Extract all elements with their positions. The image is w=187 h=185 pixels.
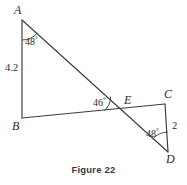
degree-symbol-D: ° bbox=[156, 127, 159, 135]
segment-CD bbox=[165, 104, 168, 152]
angle-value-E: 46 bbox=[93, 97, 103, 108]
geometry-figure: A B C D E 48° 46° 48° 4.2 2 Figure 22 bbox=[0, 0, 187, 185]
vertex-label-E: E bbox=[124, 94, 131, 106]
vertex-label-C: C bbox=[164, 88, 172, 100]
vertex-label-A: A bbox=[14, 4, 21, 16]
side-length-AB: 4.2 bbox=[5, 63, 18, 74]
side-length-CD: 2 bbox=[172, 121, 177, 132]
angle-value-D: 48 bbox=[146, 128, 156, 139]
angle-label-A: 48° bbox=[25, 36, 38, 47]
angle-value-A: 48 bbox=[25, 36, 35, 47]
angle-label-D: 48° bbox=[146, 128, 159, 139]
vertex-label-B: B bbox=[12, 120, 19, 132]
figure-drawing bbox=[0, 0, 187, 185]
angle-label-E: 46° bbox=[93, 97, 106, 108]
degree-symbol-E: ° bbox=[103, 96, 106, 104]
degree-symbol-A: ° bbox=[35, 35, 38, 43]
figure-caption: Figure 22 bbox=[0, 164, 187, 175]
